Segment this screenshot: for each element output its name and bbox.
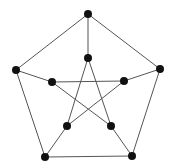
graph-node bbox=[48, 78, 56, 86]
graph-node bbox=[128, 152, 136, 160]
graph-edge bbox=[45, 126, 67, 157]
graph-edge bbox=[67, 58, 88, 126]
graph-edge bbox=[88, 14, 160, 69]
graph-edge bbox=[124, 69, 160, 81]
graph-node bbox=[41, 153, 49, 161]
graph-edge bbox=[45, 156, 132, 157]
graph-node bbox=[12, 66, 20, 74]
graph-edges bbox=[16, 14, 160, 157]
graph-node bbox=[156, 65, 164, 73]
graph-node bbox=[120, 77, 128, 85]
graph-edge bbox=[88, 58, 111, 126]
graph-node bbox=[63, 122, 71, 130]
graph-edge bbox=[16, 70, 52, 82]
graph-node bbox=[84, 10, 92, 18]
graph-edge bbox=[67, 81, 124, 126]
graph-node bbox=[107, 122, 115, 130]
graph-edge bbox=[52, 81, 124, 82]
graph-edge bbox=[16, 14, 88, 70]
graph-node bbox=[84, 54, 92, 62]
graph-edge bbox=[16, 70, 45, 157]
petersen-graph-diagram bbox=[0, 0, 173, 168]
graph-edge bbox=[132, 69, 160, 156]
graph-edge bbox=[111, 126, 132, 156]
graph-edge bbox=[52, 82, 111, 126]
